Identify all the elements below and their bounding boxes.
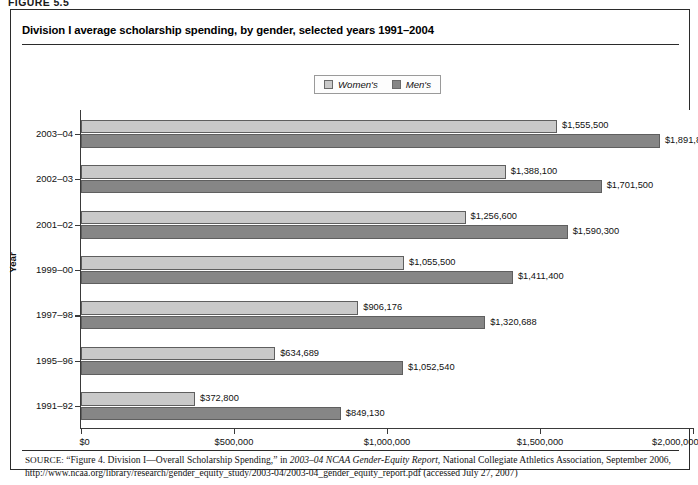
bar-mens — [81, 407, 341, 421]
x-axis-tick-label: $1,000,000 — [364, 437, 411, 447]
bar-mens — [81, 134, 660, 148]
y-axis-category-label: 2001–02 — [17, 219, 73, 230]
bar-value-label: $634,689 — [280, 348, 319, 358]
legend-item-womens: Women's — [324, 79, 378, 90]
bar-value-label: $1,320,688 — [490, 317, 537, 327]
source-divider — [22, 450, 679, 451]
x-axis-tick — [540, 428, 541, 434]
bar-value-label: $1,555,500 — [562, 120, 609, 130]
bar-value-label: $1,388,100 — [511, 166, 558, 176]
bar-value-label: $372,800 — [200, 393, 239, 403]
y-axis-category-label: 1999–00 — [17, 264, 73, 275]
y-axis-tick — [75, 225, 81, 226]
x-axis-tick — [234, 428, 235, 434]
legend-label-mens: Men's — [406, 79, 431, 90]
bar-womens — [81, 347, 275, 361]
figure-panel: Division I average scholarship spending,… — [10, 9, 690, 470]
x-axis-tick — [693, 428, 694, 434]
figure-label: FIGURE 5.5 — [8, 0, 69, 8]
y-axis-category-label: 2002–03 — [17, 173, 73, 184]
source-report-title: 2003–04 NCAA Gender-Equity Report — [290, 454, 438, 465]
legend-swatch-mens — [392, 80, 401, 89]
bar-womens — [81, 165, 506, 179]
y-axis-tick — [75, 406, 81, 407]
y-axis-category-label: 1991–92 — [17, 400, 73, 411]
x-axis-tick-label: $2,000,000 — [652, 437, 698, 447]
y-axis-category-labels: 2003–042002–032001–021999–001997–981995–… — [11, 110, 73, 428]
bar-womens — [81, 211, 466, 225]
y-axis-tick — [75, 315, 81, 316]
bar-womens — [81, 392, 195, 406]
legend-label-womens: Women's — [338, 79, 378, 90]
bar-value-label: $906,176 — [363, 302, 402, 312]
y-axis-tick — [75, 179, 81, 180]
x-axis-tick-label: $0 — [79, 437, 89, 447]
source-kicker: SOURCE: — [25, 455, 64, 465]
bar-mens — [81, 271, 513, 285]
bar-value-label: $1,055,500 — [409, 257, 456, 267]
bar-womens — [81, 256, 404, 270]
bar-value-label: $1,891,800 — [665, 135, 698, 145]
bar-value-label: $1,701,500 — [607, 180, 654, 190]
y-axis-tick — [75, 134, 81, 135]
y-axis-category-label: 1995–96 — [17, 355, 73, 366]
bar-womens — [81, 301, 358, 315]
bar-mens — [81, 225, 568, 239]
x-axis-tick-label: $500,000 — [215, 437, 254, 447]
bar-value-label: $849,130 — [346, 408, 385, 418]
bar-mens — [81, 361, 403, 375]
title-divider — [22, 44, 679, 45]
plot-area: $1,555,500$1,891,800$1,388,100$1,701,500… — [81, 110, 693, 428]
bar-mens — [81, 316, 485, 330]
legend-swatch-womens — [324, 80, 333, 89]
bar-mens — [81, 180, 602, 194]
y-axis-tick — [75, 270, 81, 271]
source-text-1: “Figure 4. Division I—Overall Scholarshi… — [64, 454, 290, 465]
bar-value-label: $1,256,600 — [471, 211, 518, 221]
bar-value-label: $1,590,300 — [573, 226, 620, 236]
x-axis-tick — [387, 428, 388, 434]
x-axis-tick — [81, 428, 82, 434]
chart-legend: Women's Men's — [314, 75, 441, 94]
bar-value-label: $1,411,400 — [518, 271, 564, 281]
x-axis-tick-label: $1,500,000 — [517, 437, 564, 447]
legend-item-mens: Men's — [392, 79, 431, 90]
source-note: SOURCE: “Figure 4. Division I—Overall Sc… — [25, 454, 685, 478]
y-axis-category-label: 2003–04 — [17, 128, 73, 139]
bar-womens — [81, 120, 557, 134]
y-axis-tick — [75, 361, 81, 362]
chart-title: Division I average scholarship spending,… — [22, 24, 434, 36]
y-axis-category-label: 1997–98 — [17, 309, 73, 320]
bar-value-label: $1,052,540 — [408, 362, 455, 372]
